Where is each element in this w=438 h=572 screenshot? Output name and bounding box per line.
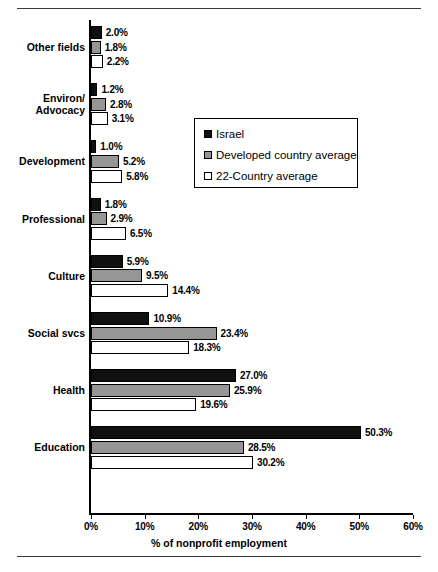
bar-value-label: 5.8% (126, 170, 148, 183)
bar-value-label: 1.0% (100, 140, 122, 153)
bar[interactable] (91, 227, 126, 240)
x-axis-tick (91, 515, 92, 519)
x-axis-tick (145, 515, 146, 519)
bar-row: 1.8% (91, 41, 411, 54)
bar[interactable] (91, 398, 196, 411)
bar-group: Other fields2.0%1.8%2.2% (0, 26, 438, 71)
bar-row: 30.2% (91, 456, 411, 469)
x-axis-tick (306, 515, 307, 519)
bar[interactable] (91, 341, 189, 354)
bar-row: 1.8% (91, 198, 411, 211)
bar[interactable] (91, 155, 119, 168)
bar-value-label: 5.2% (123, 155, 145, 168)
bar-row: 50.3% (91, 426, 411, 439)
bar[interactable] (91, 312, 149, 325)
bar-value-label: 10.9% (153, 312, 180, 325)
bar[interactable] (91, 140, 96, 153)
bar[interactable] (91, 98, 106, 111)
bar-row: 27.0% (91, 369, 411, 382)
bar-value-label: 1.8% (105, 198, 127, 211)
legend-swatch-icon-israel (204, 130, 212, 138)
bar-row: 5.9% (91, 255, 411, 268)
bar[interactable] (91, 170, 122, 183)
bar[interactable] (91, 456, 253, 469)
bar-row: 9.5% (91, 269, 411, 282)
category-label: Culture (0, 270, 85, 282)
bar-value-label: 30.2% (257, 456, 284, 469)
bar-value-label: 25.9% (234, 384, 261, 397)
bar-value-label: 50.3% (365, 426, 392, 439)
bar[interactable] (91, 384, 230, 397)
nonprofit-employment-bar-chart: Other fields2.0%1.8%2.2%Environ/Advocacy… (0, 0, 438, 572)
bar[interactable] (91, 198, 101, 211)
category-label: Professional (0, 213, 85, 225)
bar-row: 18.3% (91, 341, 411, 354)
bar-value-label: 2.2% (107, 55, 129, 68)
bar[interactable] (91, 255, 123, 268)
bar-row: 2.0% (91, 26, 411, 39)
bar-value-label: 2.0% (106, 26, 128, 39)
bar-value-label: 9.5% (146, 269, 168, 282)
category-label: Social svcs (0, 327, 85, 339)
category-label: Education (0, 441, 85, 453)
bar-row: 14.4% (91, 284, 411, 297)
bar-value-label: 2.8% (110, 98, 132, 111)
bar[interactable] (91, 212, 107, 225)
bar-value-label: 1.2% (101, 83, 123, 96)
x-axis-tick (198, 515, 199, 519)
bar-group: Health27.0%25.9%19.6% (0, 369, 438, 414)
legend-label-22-country-average: 22-Country average (216, 170, 318, 182)
bar-value-label: 18.3% (193, 341, 220, 354)
bar-row: 6.5% (91, 227, 411, 240)
bar[interactable] (91, 55, 103, 68)
bar-row: 28.5% (91, 441, 411, 454)
bar-group: Professional1.8%2.9%6.5% (0, 198, 438, 243)
x-axis-label: % of nonprofit employment (0, 537, 438, 549)
bar-value-label: 5.9% (127, 255, 149, 268)
x-axis-tick (252, 515, 253, 519)
legend-item-22-country-average: 22-Country average (204, 169, 318, 183)
x-axis-tick-label: 60% (383, 521, 438, 532)
x-axis-tick-label: 50% (329, 521, 389, 532)
bar-row: 2.2% (91, 55, 411, 68)
legend-label-developed-country-average: Developed country average (216, 149, 357, 161)
bar-value-label: 2.9% (111, 212, 133, 225)
bar-value-label: 19.6% (200, 398, 227, 411)
x-axis-tick-label: 30% (222, 521, 282, 532)
bar[interactable] (91, 83, 97, 96)
category-label: Health (0, 384, 85, 396)
bar-group: Social svcs10.9%23.4%18.3% (0, 312, 438, 357)
bar[interactable] (91, 426, 361, 439)
legend-label-israel: Israel (216, 128, 244, 140)
bar-row: 2.8% (91, 98, 411, 111)
legend-swatch-icon-developed-country-average (204, 151, 212, 159)
bar-value-label: 27.0% (240, 369, 267, 382)
x-axis-tick-label: 0% (61, 521, 121, 532)
bar-row: 1.2% (91, 83, 411, 96)
bar[interactable] (91, 327, 217, 340)
bar-value-label: 1.8% (105, 41, 127, 54)
x-axis-tick-label: 40% (276, 521, 336, 532)
legend-swatch-icon-22-country-average (204, 172, 212, 180)
legend-item-israel: Israel (204, 127, 244, 141)
bar[interactable] (91, 41, 101, 54)
bar-row: 2.9% (91, 212, 411, 225)
bar-row: 23.4% (91, 327, 411, 340)
bar-row: 10.9% (91, 312, 411, 325)
bar[interactable] (91, 284, 168, 297)
x-axis-tick (413, 515, 414, 519)
bar[interactable] (91, 441, 244, 454)
bar[interactable] (91, 26, 102, 39)
bar[interactable] (91, 369, 236, 382)
bar[interactable] (91, 112, 108, 125)
legend-item-developed-country-average: Developed country average (204, 148, 357, 162)
x-axis-line (89, 513, 413, 515)
bar-value-label: 3.1% (112, 112, 134, 125)
bar[interactable] (91, 269, 142, 282)
bar-value-label: 28.5% (248, 441, 275, 454)
bar-row: 19.6% (91, 398, 411, 411)
bar-group: Culture5.9%9.5%14.4% (0, 255, 438, 300)
category-label: Development (0, 155, 85, 167)
bar-row: 25.9% (91, 384, 411, 397)
category-label: Other fields (0, 41, 85, 53)
